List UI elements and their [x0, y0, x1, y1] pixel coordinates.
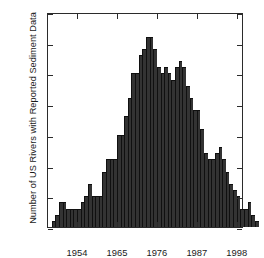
- y-tick-mark: [237, 106, 242, 107]
- x-tick-label: 1954: [57, 247, 97, 258]
- x-tick-mark: [237, 222, 238, 227]
- x-tick-mark: [157, 14, 158, 19]
- y-tick-mark: [237, 229, 242, 230]
- y-tick-mark: [237, 14, 242, 15]
- y-tick-mark: [237, 198, 242, 199]
- x-tick-label: 1965: [97, 247, 137, 258]
- x-tick-mark: [157, 222, 158, 227]
- y-tick-mark: [237, 45, 242, 46]
- histogram-bars: [48, 14, 242, 227]
- x-tick-label: 1998: [217, 247, 257, 258]
- y-tick-mark: [48, 168, 53, 169]
- x-tick-mark: [237, 14, 238, 19]
- plot-area: 05101520253035 19541965197619871998: [47, 13, 243, 228]
- histogram-bar: [255, 221, 259, 227]
- y-tick-mark: [48, 229, 53, 230]
- y-tick-mark: [237, 75, 242, 76]
- x-tick-mark: [77, 14, 78, 19]
- y-tick-mark: [48, 75, 53, 76]
- y-tick-mark: [48, 137, 53, 138]
- y-tick-mark: [237, 137, 242, 138]
- y-tick-mark: [48, 198, 53, 199]
- x-tick-mark: [77, 222, 78, 227]
- y-tick-mark: [48, 14, 53, 15]
- y-tick-mark: [48, 106, 53, 107]
- x-tick-mark: [197, 222, 198, 227]
- x-tick-mark: [117, 222, 118, 227]
- x-tick-mark: [197, 14, 198, 19]
- x-tick-label: 1976: [137, 247, 177, 258]
- y-axis-label: Number of US Rivers with Reported Sedime…: [26, 8, 40, 228]
- x-tick-mark: [117, 14, 118, 19]
- y-tick-mark: [237, 168, 242, 169]
- y-tick-mark: [48, 45, 53, 46]
- x-tick-label: 1987: [177, 247, 217, 258]
